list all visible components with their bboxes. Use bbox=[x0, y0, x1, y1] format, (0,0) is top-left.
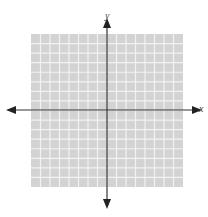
y-axis-down-arrow-icon bbox=[103, 199, 111, 209]
y-axis-label: y bbox=[105, 11, 109, 21]
x-axis-label: x bbox=[199, 104, 203, 114]
x-axis-left-arrow-icon bbox=[6, 106, 16, 114]
coordinate-plane bbox=[0, 0, 208, 217]
